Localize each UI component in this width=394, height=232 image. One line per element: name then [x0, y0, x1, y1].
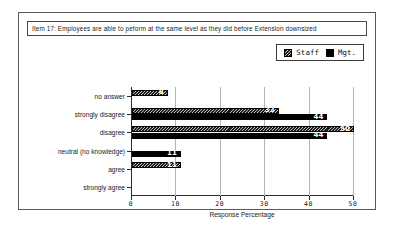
bar-mgt: 11	[132, 151, 181, 157]
x-axis-tick-label: 10	[171, 200, 180, 208]
chart-figure: Item 17: Employees are able to peform at…	[18, 12, 376, 210]
bar-staff: 8	[132, 90, 168, 96]
legend-swatch-mgt-icon	[326, 49, 334, 57]
x-axis-tick-label: 0	[129, 200, 134, 208]
bar-value-label: 44	[314, 114, 327, 121]
y-axis-category-label: strongly disagree	[75, 111, 125, 118]
legend-label-mgt: Mgt.	[338, 48, 356, 57]
gridline	[353, 87, 354, 196]
plot-area: 01020304050 no answer8strongly disagree3…	[131, 87, 353, 196]
bar-value-label: 11	[167, 162, 180, 169]
legend-item-staff: Staff	[284, 48, 319, 57]
x-axis-tick-label: 20	[215, 200, 224, 208]
bar-row: agree11	[131, 160, 353, 178]
bar-value-label: 8	[159, 89, 167, 96]
bar-value-label: 44	[314, 132, 327, 139]
y-axis-tick	[127, 187, 131, 188]
y-axis-category-label: agree	[108, 165, 125, 172]
bar-row: disagree5044	[131, 123, 353, 141]
page-title: Item 17: Employees are able to peform at…	[32, 25, 317, 32]
bar-row: neutral (no knowledge)11	[131, 142, 353, 160]
chart-legend: Staff Mgt.	[276, 44, 364, 61]
bar-staff: 11	[132, 162, 181, 168]
bar-row: strongly disagree3344	[131, 105, 353, 123]
x-axis-tick-label: 50	[348, 200, 357, 208]
bar-mgt: 44	[132, 114, 327, 120]
bar-value-label: 50	[340, 126, 353, 133]
bar-staff: 33	[132, 108, 279, 114]
legend-label-staff: Staff	[296, 48, 319, 57]
bar-value-label: 11	[167, 150, 180, 157]
bar-row: no answer8	[131, 87, 353, 105]
y-axis-tick	[127, 132, 131, 133]
y-axis-category-label: neutral (no knowledge)	[58, 147, 125, 154]
x-axis-tick-label: 30	[260, 200, 269, 208]
x-axis-tick-label: 40	[304, 200, 313, 208]
y-axis-category-label: no answer	[95, 93, 125, 100]
y-axis-category-label: strongly agree	[83, 183, 125, 190]
y-axis-tick	[127, 96, 131, 97]
legend-item-mgt: Mgt.	[326, 48, 356, 57]
y-axis-tick	[127, 151, 131, 152]
y-axis-tick	[127, 169, 131, 170]
chart-title-box: Item 17: Employees are able to peform at…	[27, 21, 367, 36]
bar-value-label: 33	[265, 107, 278, 114]
x-axis-title: Response Percentage	[131, 211, 353, 218]
legend-swatch-staff-icon	[284, 49, 292, 57]
y-axis-tick	[127, 114, 131, 115]
bar-mgt: 44	[132, 133, 327, 139]
y-axis-category-label: disagree	[100, 129, 125, 136]
bar-row: strongly agree	[131, 178, 353, 196]
